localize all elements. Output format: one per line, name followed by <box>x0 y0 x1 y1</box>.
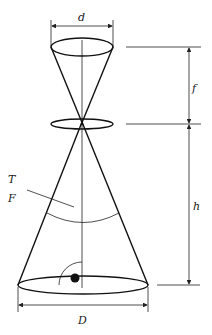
label-t: T <box>8 173 17 186</box>
height-label: h <box>193 200 200 213</box>
focal-length-label: f <box>191 82 198 95</box>
bottom-ellipse <box>18 276 148 294</box>
point-marker <box>71 274 80 283</box>
focal-length-dimension <box>126 47 201 124</box>
bottom-diameter-label: D <box>77 314 87 327</box>
angle-arc <box>59 262 82 285</box>
top-diameter-label: d <box>78 11 85 24</box>
cone-diagram: d T F f h D <box>0 0 212 335</box>
bottom-cone <box>18 122 148 285</box>
wavefront-arc <box>47 213 119 223</box>
label-leader-line <box>27 190 74 207</box>
label-f: F <box>7 192 16 205</box>
